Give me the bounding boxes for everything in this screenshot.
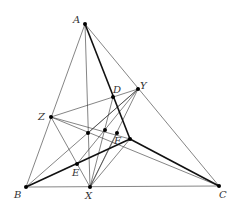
- segment-AC: [85, 24, 219, 186]
- point-P1: [86, 131, 90, 135]
- label-Z: Z: [37, 111, 46, 122]
- label-C: C: [219, 189, 227, 200]
- point-F: [128, 137, 132, 141]
- thick-lines: [26, 24, 219, 187]
- label-F: F: [113, 135, 122, 146]
- point-D: [111, 95, 115, 99]
- segment-AF: [85, 24, 130, 139]
- segment-XP3: [90, 133, 117, 187]
- point-E: [75, 162, 79, 166]
- geometry-diagram: A B C X Y Z D E F: [0, 0, 243, 214]
- label-E: E: [71, 167, 80, 178]
- point-X: [88, 185, 92, 189]
- label-B: B: [13, 189, 21, 200]
- segment-BC: [26, 186, 219, 187]
- segment-ZY: [51, 89, 138, 117]
- label-X: X: [84, 190, 93, 201]
- points: [24, 22, 221, 189]
- point-Z: [49, 115, 53, 119]
- thin-lines: [26, 24, 219, 187]
- point-P2: [103, 128, 107, 132]
- point-A: [83, 22, 87, 26]
- point-B: [24, 185, 28, 189]
- label-A: A: [72, 14, 80, 25]
- segment-ZX: [51, 117, 90, 187]
- label-D: D: [112, 84, 121, 95]
- label-Y: Y: [140, 80, 148, 91]
- segment-FC: [130, 139, 219, 186]
- point-C: [217, 184, 221, 188]
